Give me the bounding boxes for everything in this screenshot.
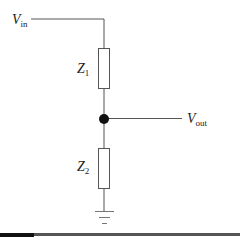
vin-wire xyxy=(31,19,104,48)
junction-node xyxy=(99,114,109,124)
z1-label: Z1 xyxy=(77,61,89,78)
bottom-rule xyxy=(0,233,240,237)
vin-label: Vin xyxy=(12,12,28,29)
z1-impedance xyxy=(99,49,110,89)
ground-icon xyxy=(95,212,114,224)
vout-label: Vout xyxy=(187,111,208,128)
voltage-divider-diagram: Vin Z1 Vout Z2 xyxy=(0,0,240,237)
z2-impedance xyxy=(99,149,110,189)
z2-label: Z2 xyxy=(77,159,89,176)
